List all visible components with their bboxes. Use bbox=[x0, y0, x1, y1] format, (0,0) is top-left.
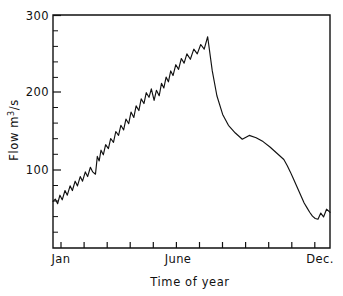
y-axis-title-suffix: /s bbox=[7, 99, 21, 110]
x-axis-ticks bbox=[61, 242, 315, 248]
y-axis-major-ticks bbox=[53, 16, 61, 171]
y-tick-label-300: 300 bbox=[26, 9, 49, 23]
x-axis-title: Time of year bbox=[149, 275, 229, 289]
y-tick-label-100: 100 bbox=[26, 163, 49, 177]
x-tick-label-jan: Jan bbox=[51, 252, 71, 266]
chart-figure: 300 200 100 Jan June Dec. Time of year F… bbox=[0, 0, 343, 296]
y-axis-title: Flow m3/s bbox=[7, 99, 21, 161]
x-tick-label-dec: Dec. bbox=[306, 252, 334, 266]
plot-frame bbox=[53, 15, 330, 248]
flow-hydrograph-chart: 300 200 100 Jan June Dec. Time of year F… bbox=[0, 0, 343, 296]
y-axis-title-main: Flow m bbox=[7, 116, 21, 161]
svg-text:Flow m3/s: Flow m3/s bbox=[7, 99, 21, 161]
flow-series-line bbox=[53, 37, 330, 220]
x-tick-label-june: June bbox=[164, 252, 192, 266]
y-tick-label-200: 200 bbox=[26, 85, 49, 99]
